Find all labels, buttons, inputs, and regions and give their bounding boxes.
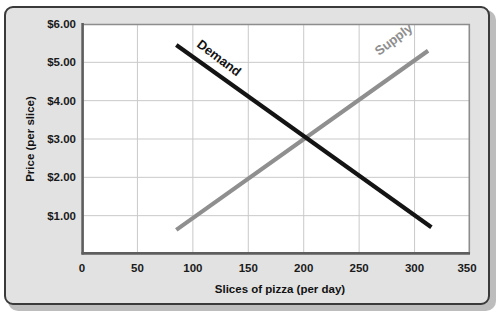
x-axis-title: Slices of pizza (per day): [215, 283, 346, 295]
y-axis-tick-labels: $6.00 $5.00 $4.00 $3.00 $2.00 $1.00: [47, 18, 76, 222]
y-axis-title: Price (per slice): [24, 96, 36, 182]
figure-root: Demand Supply $6.00 $5.00 $4.00 $3.00 $2…: [0, 0, 498, 313]
x-tick-label-250: 250: [350, 262, 369, 274]
x-tick-label-200: 200: [294, 262, 313, 274]
x-axis-tick-labels: 0 50 100 150 200 250 300 350: [79, 262, 477, 274]
y-tick-label-1: $1.00: [47, 210, 76, 222]
y-tick-label-6: $6.00: [47, 18, 76, 30]
x-tick-label-300: 300: [405, 262, 424, 274]
x-tick-label-150: 150: [239, 262, 258, 274]
x-tick-label-350: 350: [457, 262, 476, 274]
y-tick-label-2: $2.00: [47, 171, 76, 183]
x-tick-label-0: 0: [79, 262, 85, 274]
y-tick-label-3: $3.00: [47, 133, 76, 145]
x-tick-label-100: 100: [183, 262, 202, 274]
x-tick-label-50: 50: [131, 262, 144, 274]
supply-demand-chart: Demand Supply $6.00 $5.00 $4.00 $3.00 $2…: [0, 0, 498, 313]
y-tick-label-5: $5.00: [47, 56, 76, 68]
y-tick-label-4: $4.00: [47, 95, 76, 107]
